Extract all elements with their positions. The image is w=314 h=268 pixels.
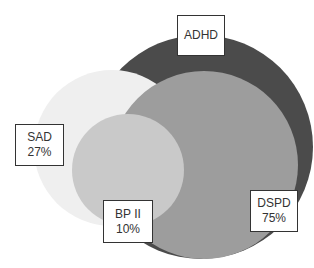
dspd-label: DSPD 75%	[250, 190, 298, 232]
bp2-label: BP II 10%	[103, 200, 153, 243]
dspd-label-name: DSPD	[257, 196, 290, 211]
sad-label: SAD 27%	[15, 124, 64, 166]
dspd-label-value: 75%	[262, 211, 286, 226]
adhd-label: ADHD	[177, 15, 225, 56]
bp2-label-value: 10%	[116, 222, 140, 237]
sad-label-value: 27%	[27, 145, 51, 160]
adhd-label-name: ADHD	[184, 28, 218, 43]
sad-label-name: SAD	[27, 130, 52, 145]
bp2-label-name: BP II	[115, 207, 141, 222]
